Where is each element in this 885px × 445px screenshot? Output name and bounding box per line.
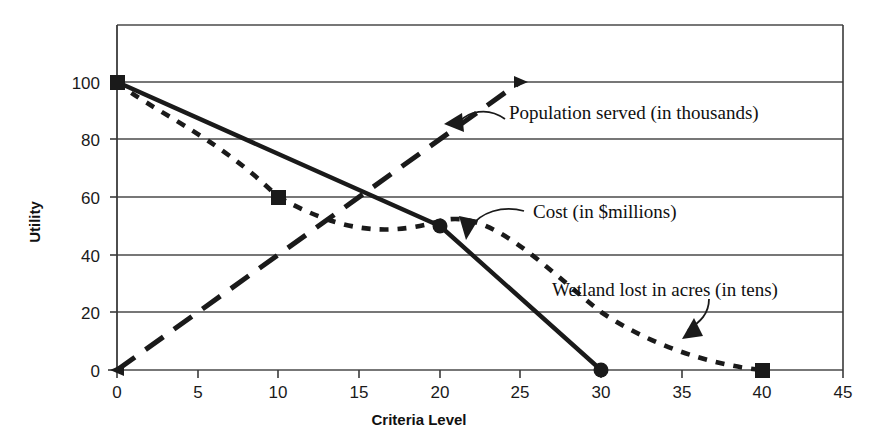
x-tick-label-25: 25 <box>511 383 530 402</box>
chart-svg: 100 80 60 40 20 0 0 5 10 15 20 25 30 35 … <box>0 0 885 445</box>
x-tick-label-45: 45 <box>834 383 853 402</box>
y-tick-label-60: 60 <box>81 189 100 208</box>
cost-marker-20 <box>433 219 448 234</box>
population-annotation-arrowhead <box>444 113 464 132</box>
cost-marker-30 <box>594 363 609 378</box>
population-marker-25 <box>514 76 528 88</box>
x-tick-label-5: 5 <box>193 383 202 402</box>
population-annotation-label: Population served (in thousands) <box>509 102 759 124</box>
cost-annotation-arrowhead <box>459 216 478 240</box>
x-axis <box>117 370 843 378</box>
y-tick-label-80: 80 <box>81 131 100 150</box>
y-tick-label-0: 0 <box>91 362 100 381</box>
x-tick-label-20: 20 <box>431 383 450 402</box>
wetland-marker-10 <box>271 190 286 205</box>
y-axis-title: Utility <box>26 201 43 243</box>
wetland-marker-40 <box>755 363 770 378</box>
x-tick-label-40: 40 <box>753 383 772 402</box>
x-tick-label-30: 30 <box>592 383 611 402</box>
x-tick-label-0: 0 <box>112 383 121 402</box>
x-axis-title: Criteria Level <box>371 411 466 428</box>
x-tick-label-35: 35 <box>673 383 692 402</box>
cost-marker-0 <box>110 75 125 90</box>
x-tick-label-15: 15 <box>350 383 369 402</box>
chart-container: 100 80 60 40 20 0 0 5 10 15 20 25 30 35 … <box>0 0 885 445</box>
cost-line <box>117 82 601 370</box>
annotation-cost: Cost (in $millions) <box>459 201 677 240</box>
wetland-annotation-label: Wetland lost in acres (in tens) <box>552 279 778 301</box>
y-tick-label-100: 100 <box>72 74 100 93</box>
annotation-wetland: Wetland lost in acres (in tens) <box>552 279 778 339</box>
cost-annotation-leader <box>470 209 524 228</box>
annotation-population: Population served (in thousands) <box>444 102 759 132</box>
x-tick-label-10: 10 <box>269 383 288 402</box>
y-tick-label-20: 20 <box>81 304 100 323</box>
y-tick-label-40: 40 <box>81 247 100 266</box>
grid-group <box>117 25 843 370</box>
cost-annotation-label: Cost (in $millions) <box>533 201 677 223</box>
